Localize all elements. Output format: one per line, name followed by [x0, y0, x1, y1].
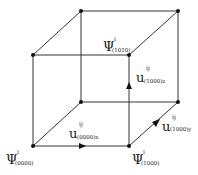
label-u-1000y-sup: ij	[172, 114, 176, 120]
label-psi-1000-sup: i	[143, 149, 145, 155]
node-back-bottom-left	[79, 100, 83, 104]
cube-diagram	[0, 0, 198, 175]
label-u-1000z-sub: (1000)z	[144, 79, 165, 85]
label-psi-1010-sub: (1010)	[112, 48, 130, 54]
label-u-1000z-sup: ij	[146, 65, 150, 71]
label-psi-1000-sub: (1000)	[141, 161, 159, 167]
arrow-right-icon	[79, 143, 86, 149]
edge-bottom-right-diag	[129, 102, 178, 146]
node-back-top-right	[176, 9, 180, 13]
arrow-diagonal-icon	[152, 119, 160, 127]
label-u-1000y: u ij (1000)y	[162, 118, 170, 134]
label-u-1000y-sub: (1000)y	[170, 127, 191, 133]
edge-top-right-diag	[129, 11, 178, 55]
label-psi-1010: Ψ i (1010)	[103, 38, 114, 54]
label-psi-0000-sup: i	[17, 149, 19, 155]
label-u-0000x: u ij (0000)x	[69, 125, 77, 141]
label-u-0000x-sup: ij	[79, 121, 83, 127]
node-front-top-right	[127, 53, 131, 57]
label-u-0000x-sub: (0000)x	[77, 135, 98, 141]
node-front-top-left	[31, 53, 35, 57]
node-front-bottom-left	[31, 144, 35, 148]
label-u-1000z: u ij (1000)z	[136, 69, 144, 85]
node-back-top-left	[79, 9, 83, 13]
arrow-up-icon	[126, 82, 132, 89]
node-back-bottom-right	[176, 100, 180, 104]
label-psi-1000: Ψ i (1000)	[132, 151, 143, 167]
edge-top-left-diag	[33, 11, 81, 55]
label-psi-0000-sub: (0000)	[15, 161, 33, 167]
node-front-bottom-right	[127, 144, 131, 148]
label-psi-0000: Ψ i (0000)	[6, 151, 17, 167]
label-psi-1010-sup: i	[114, 36, 116, 42]
